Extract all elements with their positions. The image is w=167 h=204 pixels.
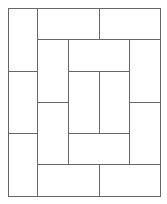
tile-14 xyxy=(100,165,161,197)
tile-10 xyxy=(69,134,130,165)
tile-13 xyxy=(38,165,100,197)
tile-5 xyxy=(38,40,69,103)
tile-7 xyxy=(69,40,130,72)
tile-6 xyxy=(38,103,69,165)
tile-12 xyxy=(130,103,161,165)
tile-11 xyxy=(130,40,161,103)
tile-3 xyxy=(38,9,100,40)
tile-0 xyxy=(9,9,38,72)
tile-group xyxy=(9,9,161,197)
tile-9 xyxy=(100,72,130,134)
tiling-diagram xyxy=(0,0,167,204)
tile-1 xyxy=(9,72,38,134)
tile-4 xyxy=(100,9,161,40)
tile-2 xyxy=(9,134,38,197)
tile-8 xyxy=(69,72,100,134)
